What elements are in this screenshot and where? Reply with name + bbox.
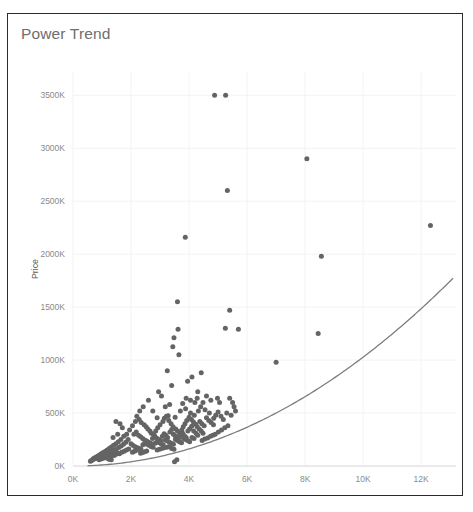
data-point <box>137 408 142 413</box>
data-point <box>170 344 175 349</box>
data-point <box>183 235 188 240</box>
data-point <box>118 421 123 426</box>
data-point <box>187 439 192 444</box>
data-point <box>195 396 200 401</box>
data-point <box>223 93 228 98</box>
data-point <box>216 409 221 414</box>
x-tick-label: 10K <box>356 474 371 484</box>
data-point <box>208 398 213 403</box>
plot-svg: 0K500K1000K1500K2000K2500K3000K3500K 0K2… <box>8 14 464 497</box>
data-point <box>111 435 116 440</box>
x-tick-label: 2K <box>126 474 137 484</box>
y-axis-label: Price <box>30 259 40 279</box>
data-point <box>192 400 197 405</box>
data-point <box>207 411 212 416</box>
data-point <box>130 423 135 428</box>
data-point <box>169 383 174 388</box>
y-axis-ticks: 0K500K1000K1500K2000K2500K3000K3500K <box>40 90 65 471</box>
data-point <box>223 326 228 331</box>
data-point <box>88 459 93 464</box>
data-point <box>192 413 197 418</box>
data-point <box>304 156 309 161</box>
data-point <box>144 448 149 453</box>
data-point <box>185 379 190 384</box>
data-point <box>233 408 238 413</box>
x-tick-label: 6K <box>242 474 253 484</box>
data-point <box>236 327 241 332</box>
data-point <box>224 411 229 416</box>
data-point <box>225 188 230 193</box>
x-axis-label: Size (Sq Ft) <box>241 496 288 497</box>
data-point <box>215 396 220 401</box>
data-point <box>189 424 194 429</box>
data-point <box>229 413 234 418</box>
data-point <box>200 400 205 405</box>
data-point <box>225 423 230 428</box>
data-point <box>127 427 132 432</box>
gridlines <box>73 72 456 466</box>
data-point <box>171 447 176 452</box>
data-point <box>167 402 172 407</box>
data-point <box>428 223 433 228</box>
y-tick-label: 2000K <box>40 249 65 259</box>
data-point <box>227 396 232 401</box>
data-point <box>232 404 237 409</box>
data-point <box>203 407 208 412</box>
data-point <box>200 431 205 436</box>
data-point <box>221 417 226 422</box>
data-point <box>164 414 169 419</box>
y-tick-label: 500K <box>45 408 65 418</box>
data-point <box>156 389 161 394</box>
y-tick-label: 2500K <box>40 196 65 206</box>
data-point <box>211 422 216 427</box>
data-point <box>171 335 176 340</box>
chart-card: Power Trend 0K500K1000K1500K2000K2500K30… <box>7 13 463 496</box>
data-point <box>319 254 324 259</box>
data-point <box>163 404 168 409</box>
data-point <box>196 408 201 413</box>
data-point <box>217 400 222 405</box>
data-point <box>189 375 194 380</box>
data-point <box>195 389 200 394</box>
x-tick-label: 8K <box>300 474 311 484</box>
data-point <box>120 425 125 430</box>
data-point <box>109 457 114 462</box>
data-point <box>227 308 232 313</box>
data-point <box>180 401 185 406</box>
data-point <box>165 368 170 373</box>
data-point <box>191 436 196 441</box>
data-point <box>176 352 181 357</box>
data-point <box>115 432 120 437</box>
y-tick-label: 3000K <box>40 143 65 153</box>
y-tick-label: 1500K <box>40 302 65 312</box>
data-point <box>184 396 189 401</box>
x-tick-label: 12K <box>414 474 429 484</box>
data-point <box>199 370 204 375</box>
data-point <box>176 327 181 332</box>
data-point <box>159 394 164 399</box>
data-point <box>230 400 235 405</box>
data-point <box>179 440 184 445</box>
y-tick-label: 0K <box>55 461 66 471</box>
data-point <box>173 415 178 420</box>
x-tick-label: 0K <box>68 474 79 484</box>
data-point <box>169 427 174 432</box>
data-point <box>155 415 160 420</box>
data-point <box>150 408 155 413</box>
data-point <box>212 93 217 98</box>
data-point <box>274 360 279 365</box>
y-tick-label: 3500K <box>40 90 65 100</box>
x-axis-ticks: 0K2K4K6K8K10K12K <box>68 474 429 484</box>
data-point <box>198 404 203 409</box>
data-point <box>316 331 321 336</box>
data-point <box>178 408 183 413</box>
scatter-plot: 0K500K1000K1500K2000K2500K3000K3500K 0K2… <box>8 14 464 497</box>
data-point <box>174 457 179 462</box>
y-tick-label: 1000K <box>40 355 65 365</box>
data-point <box>204 394 209 399</box>
data-point <box>202 423 207 428</box>
data-point <box>141 404 146 409</box>
data-point <box>146 398 151 403</box>
x-tick-label: 4K <box>184 474 195 484</box>
data-point <box>183 406 188 411</box>
